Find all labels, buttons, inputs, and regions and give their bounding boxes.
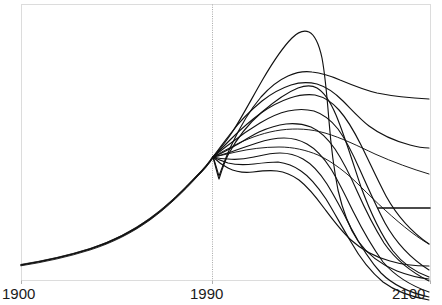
chart-container: 1900 1990 2100 <box>0 0 442 305</box>
scenario-spaghetti-plot <box>0 0 442 305</box>
x-axis-label-end: 2100 <box>392 285 425 302</box>
plot-frame <box>22 5 431 281</box>
x-axis-label-mid: 1990 <box>190 285 223 302</box>
axis-ticks <box>22 281 431 285</box>
x-axis-label-start: 1900 <box>2 285 35 302</box>
